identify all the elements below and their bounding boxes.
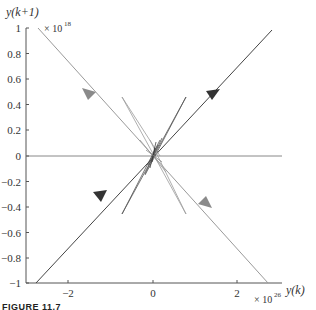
y-tick-label: 0.8	[7, 48, 21, 60]
y-multiplier: × 10	[44, 23, 62, 34]
y-tick-label: −0.4	[1, 201, 21, 213]
x-tick-label: −2	[62, 287, 74, 299]
arrow-down-right-icon	[198, 196, 212, 208]
y-tick-label: −1	[9, 277, 21, 289]
x-exponent: 26	[274, 291, 282, 299]
y-tick-label: −0.8	[1, 252, 21, 264]
y-tick-label: 1	[16, 22, 22, 34]
y-tick-label: 0.4	[7, 99, 21, 111]
x-tick-label: 2	[234, 287, 240, 299]
y-axis-label: y(k+1)	[5, 5, 39, 19]
figure-caption: FIGURE 11.7	[2, 302, 61, 310]
y-tick-label: −0.2	[1, 176, 21, 188]
x-multiplier: × 10	[254, 294, 272, 305]
y-tick-label: −0.6	[1, 227, 21, 239]
x-tick-label: 0	[150, 287, 156, 299]
x-axis-label: y(k)	[285, 283, 305, 297]
phase-plot: 1 0.8 0.6 0.4 0.2 0 −0.2 −0.4 −0.6 −0.8 …	[0, 0, 316, 310]
y-tick-label: 0	[16, 150, 22, 162]
y-tick-label: 0.2	[7, 124, 21, 136]
y-tick-label: 0.6	[7, 73, 21, 85]
arrow-down-left-icon	[93, 190, 107, 202]
y-exponent: 18	[64, 20, 72, 28]
